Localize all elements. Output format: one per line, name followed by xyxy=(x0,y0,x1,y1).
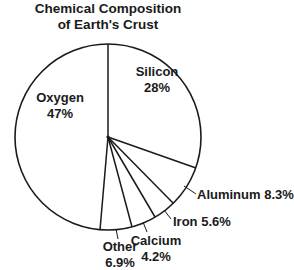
label-oxygen-name: Oxygen xyxy=(34,90,86,106)
label-oxygen-value: 47% xyxy=(34,106,86,122)
leader-calcium xyxy=(143,222,147,232)
label-other: Other 6.9% xyxy=(100,239,140,270)
leader-aluminum xyxy=(184,186,196,194)
label-other-name: Other xyxy=(100,239,140,255)
label-other-value: 6.9% xyxy=(100,255,140,270)
label-oxygen: Oxygen 47% xyxy=(34,90,86,122)
label-aluminum: Aluminum 8.3% xyxy=(197,187,294,203)
leader-iron xyxy=(164,210,171,219)
label-iron: Iron 5.6% xyxy=(173,214,231,230)
pie-chart xyxy=(0,0,294,270)
leader-other xyxy=(116,229,118,239)
label-silicon-name: Silicon xyxy=(127,64,187,80)
label-silicon-value: 28% xyxy=(127,80,187,96)
pie-center xyxy=(106,135,109,138)
label-silicon: Silicon 28% xyxy=(127,64,187,96)
